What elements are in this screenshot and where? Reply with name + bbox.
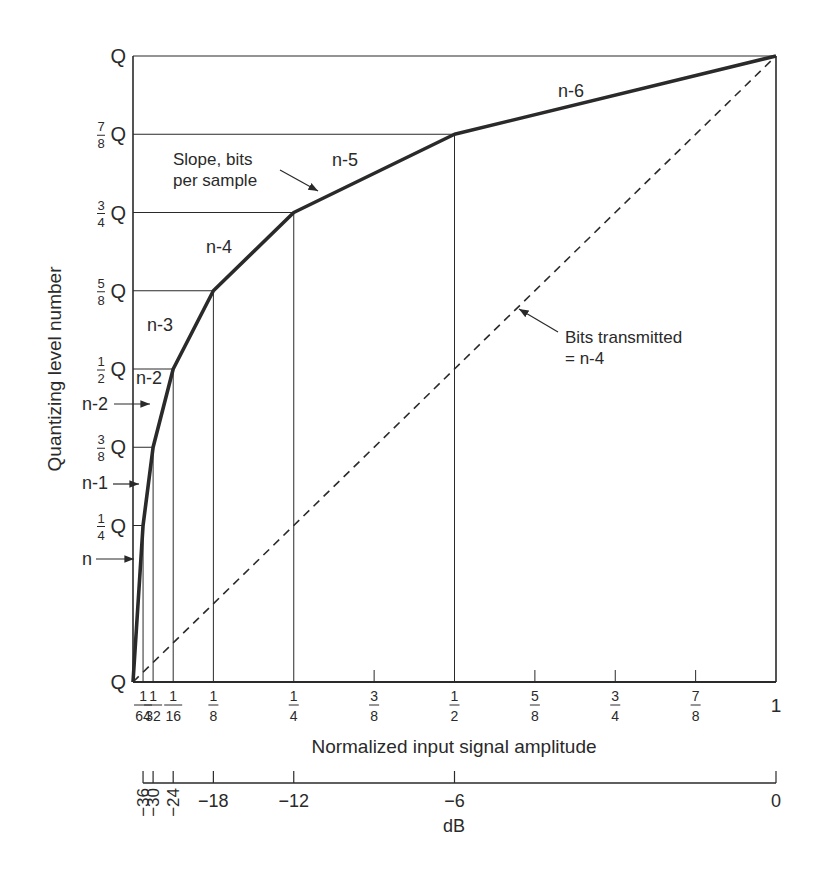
y-tick-label: Q: [110, 280, 126, 302]
y-axis-label: Quantizing level number: [44, 266, 65, 472]
db-tick-label: −12: [278, 791, 309, 811]
x-tick-numerator: 3: [370, 688, 378, 704]
y-tick-label: Q: [110, 671, 126, 693]
bits-transmitted-line2: = n-4: [565, 349, 604, 368]
y-tick-numerator: 7: [97, 119, 104, 134]
x-axis: 164132116181438125834781: [134, 670, 781, 724]
y-tick-denominator: 8: [97, 449, 104, 464]
y-tick-denominator: 8: [97, 293, 104, 308]
slope-callout-line1: Slope, bits: [173, 150, 252, 169]
x-tick-numerator: 5: [531, 688, 539, 704]
x-tick-label: 1: [771, 695, 782, 716]
y-tick-label: Q: [110, 515, 126, 537]
y-tick-numerator: 5: [97, 276, 104, 291]
bits-transmitted-line1: Bits transmitted: [565, 328, 682, 347]
db-axis: −36−30−24−18−12−60: [134, 771, 781, 817]
y-tick-numerator: 3: [97, 432, 104, 447]
y-tick-label: Q: [110, 436, 126, 458]
arrow-label-n-2: n-2: [82, 394, 108, 414]
x-tick-denominator: 32: [145, 708, 161, 724]
db-axis-label: dB: [443, 816, 465, 836]
x-tick-denominator: 4: [290, 708, 298, 724]
segment-label-n-5: n-5: [332, 150, 358, 170]
x-tick-numerator: 1: [209, 688, 217, 704]
y-tick-label: Q: [110, 45, 126, 67]
x-tick-denominator: 8: [370, 708, 378, 724]
y-tick-label: Q: [110, 202, 126, 224]
x-tick-numerator: 1: [451, 688, 459, 704]
y-tick-label: Q: [110, 358, 126, 380]
segment-label-n-6: n-6: [558, 81, 584, 101]
db-tick-label: −6: [444, 791, 465, 811]
y-tick-numerator: 1: [97, 511, 104, 526]
y-tick-denominator: 8: [97, 136, 104, 151]
arrow-label-n-1: n-1: [82, 473, 108, 493]
guide-lines: [133, 134, 455, 682]
x-tick-denominator: 8: [209, 708, 217, 724]
slope-callout-arrow: [280, 170, 318, 191]
segment-label-n-4: n-4: [206, 237, 232, 257]
segment-label-n-2-inner: n-2: [136, 368, 162, 388]
db-tick-label: −24: [164, 788, 183, 817]
x-tick-numerator: 1: [149, 688, 157, 704]
y-tick-numerator: 3: [97, 198, 104, 213]
y-tick-label: Q: [110, 123, 126, 145]
y-axis: QQ14Q38Q12Q58Q34Q78Q: [97, 45, 126, 693]
arrow-label-n: n: [82, 549, 92, 569]
bits-transmitted-arrow: [519, 309, 558, 332]
x-tick-numerator: 1: [290, 688, 298, 704]
x-tick-numerator: 3: [611, 688, 619, 704]
y-tick-denominator: 4: [97, 215, 104, 230]
db-tick-label: 0: [771, 791, 781, 811]
segment-label-n-3: n-3: [147, 315, 173, 335]
x-tick-numerator: 1: [169, 688, 177, 704]
x-tick-numerator: 1: [139, 688, 147, 704]
x-axis-label: Normalized input signal amplitude: [311, 736, 596, 757]
y-tick-denominator: 2: [97, 371, 104, 386]
x-tick-denominator: 16: [165, 708, 181, 724]
db-tick-label: −18: [198, 791, 229, 811]
annotations: n-6n-5n-4n-3n-2n-2n-1nSlope, bitsper sam…: [82, 81, 682, 569]
y-tick-denominator: 4: [97, 528, 104, 543]
slope-callout-line2: per sample: [173, 171, 257, 190]
db-tick-label: −30: [144, 788, 163, 817]
x-tick-denominator: 2: [451, 708, 459, 724]
x-tick-denominator: 8: [692, 708, 700, 724]
y-tick-numerator: 1: [97, 354, 104, 369]
x-tick-denominator: 4: [611, 708, 619, 724]
x-tick-denominator: 8: [531, 708, 539, 724]
x-tick-numerator: 7: [692, 688, 700, 704]
companding-chart: 164132116181438125834781 QQ14Q38Q12Q58Q3…: [0, 0, 819, 874]
